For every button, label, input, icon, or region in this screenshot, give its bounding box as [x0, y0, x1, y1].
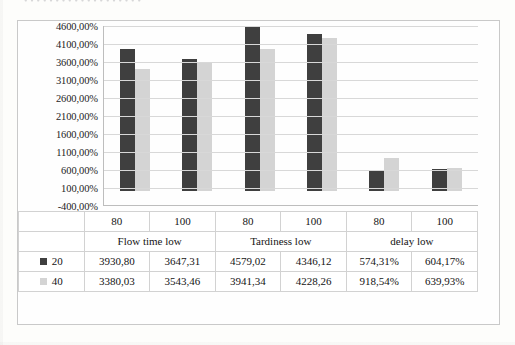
plot-area — [103, 26, 478, 206]
data-cell: 3380,03 — [84, 272, 150, 292]
y-axis-tick-label: 3600,00% — [56, 57, 98, 68]
gridline — [104, 152, 478, 153]
category-cell: 100 — [281, 212, 347, 232]
gridline — [104, 44, 478, 45]
table-category-row: 801008010080100 — [19, 212, 478, 232]
y-axis-tick-label: 4100,00% — [56, 39, 98, 50]
data-cell: 4579,02 — [215, 252, 281, 272]
bar-series-40-cat-5 — [384, 158, 399, 191]
table-corner-cell — [19, 232, 85, 252]
gridline — [104, 188, 478, 189]
y-axis-tick-label: -400,00% — [58, 201, 98, 212]
data-cell: 574,31% — [346, 252, 412, 272]
data-cell: 3941,34 — [215, 272, 281, 292]
group-header-cell: Flow time low — [84, 232, 215, 252]
data-cell: 3543,46 — [150, 272, 216, 292]
category-cell: 100 — [150, 212, 216, 232]
table-corner-cell — [19, 212, 85, 232]
y-axis-tick-label: 4600,00% — [56, 21, 98, 32]
plot-region: 4600,00%4100,00%3600,00%3100,00%2600,00%… — [18, 21, 501, 211]
legend-cell-series-40: 40 — [19, 272, 85, 292]
chart-data-table: 801008010080100Flow time lowTardiness lo… — [18, 211, 478, 292]
y-axis-tick-label: 2600,00% — [56, 93, 98, 104]
gridline — [104, 134, 478, 135]
data-cell: 639,93% — [412, 272, 478, 292]
y-axis-tick-label: 1600,00% — [56, 129, 98, 140]
gridline — [104, 80, 478, 81]
gridline — [104, 26, 478, 27]
category-cell: 80 — [215, 212, 281, 232]
cut-off-title-fragment: • • • • • • • • • • • • • • • • • • • — [24, 0, 141, 6]
table-row: 403380,033543,463941,344228,26918,54%639… — [19, 272, 478, 292]
category-cell: 80 — [84, 212, 150, 232]
bar-series-40-cat-2 — [197, 63, 212, 191]
y-axis-tick-label: 3100,00% — [56, 75, 98, 86]
category-cell: 100 — [412, 212, 478, 232]
y-axis-tick-label: 2100,00% — [56, 111, 98, 122]
data-table-area: 801008010080100Flow time lowTardiness lo… — [18, 211, 501, 292]
y-axis-tick-label: 1100,00% — [56, 147, 98, 158]
data-cell: 3647,31 — [150, 252, 216, 272]
series-40-swatch — [40, 278, 47, 285]
bar-series-20-cat-3 — [245, 26, 260, 191]
gridline — [104, 98, 478, 99]
data-cell: 604,17% — [412, 252, 478, 272]
y-axis-tick-label: 600,00% — [61, 165, 98, 176]
data-cell: 4346,12 — [281, 252, 347, 272]
legend-label: 20 — [52, 255, 63, 267]
group-header-cell: delay low — [346, 232, 477, 252]
category-cell: 80 — [346, 212, 412, 232]
gridline — [104, 116, 478, 117]
group-header-cell: Tardiness low — [215, 232, 346, 252]
chart-page: • • • • • • • • • • • • • • • • • • • 46… — [0, 0, 515, 345]
bar-series-20-cat-4 — [307, 34, 322, 190]
data-cell: 918,54% — [346, 272, 412, 292]
legend-label: 40 — [52, 275, 63, 287]
y-axis-labels: 4600,00%4100,00%3600,00%3100,00%2600,00%… — [18, 21, 102, 211]
table-row: 203930,803647,314579,024346,12574,31%604… — [19, 252, 478, 272]
data-cell: 4228,26 — [281, 272, 347, 292]
chart-frame: 4600,00%4100,00%3600,00%3100,00%2600,00%… — [17, 20, 500, 325]
y-axis-tick-label: 100,00% — [61, 183, 98, 194]
data-cell: 3930,80 — [84, 252, 150, 272]
series-20-swatch — [40, 258, 47, 265]
legend-cell-series-20: 20 — [19, 252, 85, 272]
gridline — [104, 62, 478, 63]
gridline — [104, 170, 478, 171]
bar-series-40-cat-1 — [135, 69, 150, 191]
table-group-header-row: Flow time lowTardiness lowdelay low — [19, 232, 478, 252]
